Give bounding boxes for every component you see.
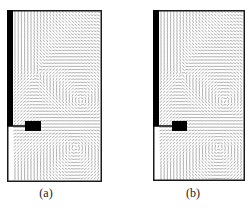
left-wall — [153, 10, 159, 126]
vector-field-plot-a — [7, 10, 102, 182]
block-obstacle — [25, 121, 41, 131]
vector-field-plot-b — [153, 10, 245, 181]
panel-label-a: (a) — [26, 186, 66, 201]
block-obstacle — [172, 121, 187, 131]
panel-a — [7, 10, 102, 182]
left-wall — [7, 10, 13, 126]
panel-label-b: (b) — [173, 186, 213, 201]
panel-b — [153, 10, 245, 181]
